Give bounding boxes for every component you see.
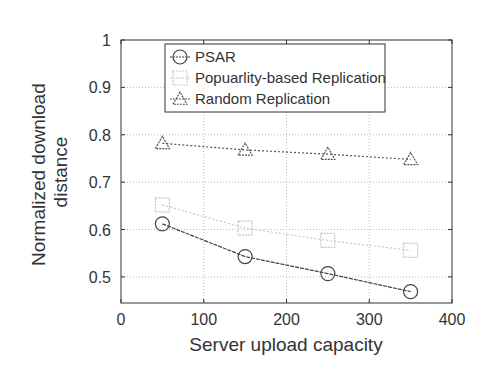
legend-entry: PSAR [195,48,236,65]
x-tick-label: 0 [117,311,126,328]
y-axis-label-line1: Normalized download [28,83,49,266]
series-square [155,198,417,257]
chart: 01002003004000.50.60.70.80.91 PSARPopuar… [0,0,490,380]
y-tick-label: 0.9 [89,79,111,96]
y-tick-label: 0.6 [89,222,111,239]
legend-entry: Random Replication [195,90,330,107]
legend: PSARPopuarlity-based ReplicationRandom R… [165,44,386,112]
y-axis-label-line2: distance [50,137,71,208]
y-tick-label: 1 [102,32,111,49]
y-tick-label: 0.8 [89,127,111,144]
x-tick-label: 100 [190,311,217,328]
legend-entry: Popuarlity-based Replication [195,69,386,86]
x-tick-label: 200 [273,311,300,328]
y-axis-label: Normalized download distance [28,78,71,266]
y-tick-label: 0.5 [89,269,111,286]
y-tick-label: 0.7 [89,174,111,191]
x-axis-label: Server upload capacity [189,334,383,355]
x-tick-label: 300 [356,311,383,328]
x-tick-label: 400 [439,311,466,328]
